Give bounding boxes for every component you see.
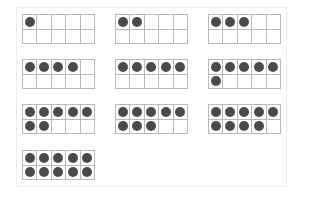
ten-frame-cell — [23, 120, 37, 135]
ten-frame-cell — [145, 75, 159, 90]
ten-frame-cell — [223, 75, 237, 90]
ten-frame-cell — [238, 120, 252, 135]
counter-dot-icon — [53, 107, 63, 117]
ten-frame-8 — [115, 104, 188, 134]
counter-dot-icon — [53, 153, 63, 163]
ten-frame-cell — [116, 105, 130, 120]
ten-frame-cell — [52, 151, 66, 166]
ten-frame-cell — [209, 30, 223, 45]
ten-frame-cell — [116, 120, 130, 135]
ten-frame-cell — [159, 75, 173, 90]
ten-frame-cell — [23, 30, 37, 45]
ten-frame-cell — [130, 30, 144, 45]
counter-dot-icon — [25, 121, 35, 131]
ten-frame-cell — [81, 166, 95, 181]
ten-frame-cell — [66, 166, 80, 181]
ten-frame-cell — [23, 105, 37, 120]
counter-dot-icon — [53, 62, 63, 72]
ten-frame-cell — [52, 105, 66, 120]
ten-frame-cell — [267, 105, 281, 120]
counter-dot-icon — [146, 121, 156, 131]
counter-dot-icon — [39, 107, 49, 117]
counter-dot-icon — [132, 107, 142, 117]
counter-dot-icon — [175, 62, 185, 72]
counter-dot-icon — [146, 107, 156, 117]
ten-frame-7 — [22, 104, 95, 134]
ten-frame-cell — [267, 60, 281, 75]
ten-frame-cell — [238, 75, 252, 90]
ten-frame-cell — [130, 15, 144, 30]
ten-frame-cell — [159, 120, 173, 135]
ten-frame-cell — [37, 151, 51, 166]
ten-frame-cell — [252, 15, 266, 30]
counter-dot-icon — [25, 167, 35, 177]
ten-frame-cell — [37, 15, 51, 30]
counter-dot-icon — [225, 17, 235, 27]
ten-frame-cell — [209, 105, 223, 120]
ten-frame-cell — [209, 120, 223, 135]
counter-dot-icon — [53, 167, 63, 177]
counter-dot-icon — [254, 121, 264, 131]
ten-frame-cell — [81, 15, 95, 30]
ten-frame-cell — [159, 15, 173, 30]
ten-frame-cell — [223, 120, 237, 135]
counter-dot-icon — [25, 17, 35, 27]
ten-frame-cell — [81, 120, 95, 135]
ten-frame-cell — [66, 15, 80, 30]
counter-dot-icon — [161, 62, 171, 72]
counter-dot-icon — [211, 17, 221, 27]
counter-dot-icon — [211, 107, 221, 117]
ten-frame-cell — [252, 75, 266, 90]
ten-frame-cell — [66, 75, 80, 90]
counter-dot-icon — [132, 62, 142, 72]
counter-dot-icon — [68, 167, 78, 177]
ten-frame-cell — [37, 60, 51, 75]
ten-frame-cell — [23, 60, 37, 75]
ten-frame-cell — [37, 120, 51, 135]
ten-frame-cell — [52, 30, 66, 45]
counter-dot-icon — [39, 62, 49, 72]
ten-frame-cell — [37, 166, 51, 181]
ten-frame-cell — [66, 105, 80, 120]
ten-frame-cell — [23, 75, 37, 90]
ten-frame-cell — [66, 30, 80, 45]
ten-frame-3 — [208, 14, 281, 44]
ten-frame-cell — [159, 105, 173, 120]
ten-frame-cell — [267, 75, 281, 90]
ten-frame-cell — [145, 120, 159, 135]
counter-dot-icon — [118, 17, 128, 27]
ten-frame-cell — [174, 60, 188, 75]
ten-frame-cell — [52, 75, 66, 90]
ten-frame-cell — [52, 166, 66, 181]
ten-frame-cell — [81, 30, 95, 45]
ten-frame-cell — [209, 15, 223, 30]
counter-dot-icon — [268, 107, 278, 117]
counter-dot-icon — [268, 62, 278, 72]
ten-frame-cell — [81, 60, 95, 75]
ten-frame-cell — [23, 151, 37, 166]
ten-frame-9 — [208, 104, 281, 134]
ten-frame-cell — [209, 75, 223, 90]
ten-frame-cell — [145, 60, 159, 75]
ten-frame-cell — [267, 120, 281, 135]
counter-dot-icon — [39, 153, 49, 163]
counter-dot-icon — [118, 107, 128, 117]
ten-frame-6 — [208, 59, 281, 89]
counter-dot-icon — [118, 62, 128, 72]
counter-dot-icon — [25, 62, 35, 72]
ten-frame-cell — [52, 120, 66, 135]
ten-frame-cell — [37, 75, 51, 90]
ten-frame-cell — [37, 105, 51, 120]
ten-frame-cell — [174, 15, 188, 30]
ten-frame-cell — [130, 60, 144, 75]
ten-frame-2 — [115, 14, 188, 44]
counter-dot-icon — [146, 62, 156, 72]
ten-frame-5 — [115, 59, 188, 89]
ten-frame-cell — [267, 30, 281, 45]
counter-dot-icon — [225, 121, 235, 131]
ten-frame-cell — [238, 105, 252, 120]
ten-frame-cell — [174, 120, 188, 135]
ten-frame-cell — [130, 105, 144, 120]
ten-frame-cell — [238, 30, 252, 45]
counter-dot-icon — [68, 62, 78, 72]
